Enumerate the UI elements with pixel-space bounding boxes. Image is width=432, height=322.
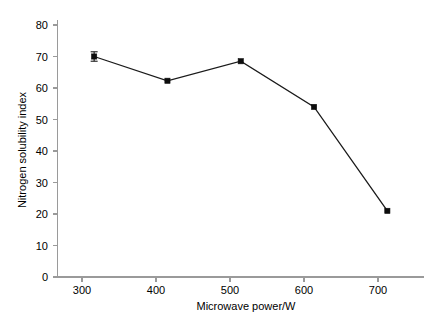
data-point-600w [311, 104, 316, 109]
data-point-500w [238, 59, 243, 64]
x-tick-label: 600 [295, 284, 313, 296]
data-point-400w [165, 78, 170, 83]
line-chart-canvas: 80 70 60 50 40 30 20 10 0 300 400 500 60… [0, 0, 432, 322]
x-axis-title: Microwave power/W [196, 300, 296, 312]
y-tick-label: 60 [36, 82, 48, 94]
x-tick-label: 400 [147, 284, 165, 296]
data-point-300w [92, 54, 97, 59]
chart-background [0, 0, 432, 322]
y-tick-label: 30 [36, 177, 48, 189]
x-tick-label: 700 [369, 284, 387, 296]
y-axis-tick-labels: 80 70 60 50 40 30 20 10 0 [36, 19, 48, 283]
chart-figure: 80 70 60 50 40 30 20 10 0 300 400 500 60… [0, 0, 432, 322]
y-axis-title: Nitrogen solubility index [16, 91, 28, 208]
y-tick-label: 80 [36, 19, 48, 31]
y-tick-label: 10 [36, 240, 48, 252]
y-tick-label: 20 [36, 208, 48, 220]
y-tick-label: 70 [36, 51, 48, 63]
x-tick-label: 500 [221, 284, 239, 296]
x-tick-label: 300 [73, 284, 91, 296]
y-tick-label: 40 [36, 145, 48, 157]
y-tick-label: 0 [42, 271, 48, 283]
y-tick-label: 50 [36, 114, 48, 126]
data-point-700w [385, 208, 390, 213]
